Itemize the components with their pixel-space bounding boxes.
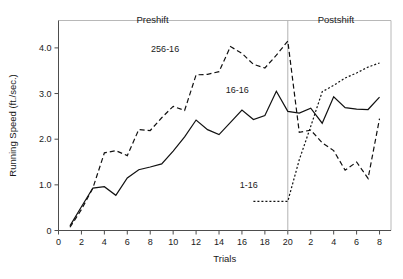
y-tick-label: 0	[46, 226, 51, 236]
y-tick-label: 3.0	[39, 89, 52, 99]
axis-titles: TrialsRunning Speed (ft./sec.)	[7, 74, 236, 263]
series-line-256-16	[70, 41, 380, 227]
series-label-16-16: 16-16	[226, 85, 249, 95]
chart-svg: 01.02.03.04.0024681012141618202468 Presh…	[0, 0, 403, 279]
y-tick-label: 4.0	[39, 43, 52, 53]
axis-lines	[59, 21, 392, 231]
axis-ticks	[55, 48, 380, 235]
y-axis-title: Running Speed (ft./sec.)	[7, 74, 18, 176]
series-label-1-16: 1-16	[240, 180, 258, 190]
x-tick-label: 6	[354, 237, 359, 247]
x-tick-label: 8	[377, 237, 382, 247]
plot-border	[59, 21, 392, 231]
x-tick-label: 4	[331, 237, 336, 247]
y-tick-label: 2.0	[39, 134, 52, 144]
y-tick-label: 1.0	[39, 180, 52, 190]
annotation-group: PreshiftPostshift256-1616-161-16	[136, 14, 354, 190]
series-line-16-16	[70, 91, 380, 226]
x-tick-label: 0	[56, 237, 61, 247]
series-line-1-16	[253, 63, 379, 201]
postshift-label: Postshift	[318, 14, 355, 25]
x-axis-title: Trials	[213, 253, 236, 264]
x-tick-label: 6	[125, 237, 130, 247]
x-tick-label: 10	[168, 237, 178, 247]
chart-figure: 01.02.03.04.0024681012141618202468 Presh…	[0, 0, 403, 279]
x-tick-label: 16	[237, 237, 247, 247]
series-label-256-16: 256-16	[151, 44, 179, 54]
x-tick-label: 18	[260, 237, 270, 247]
x-tick-label: 2	[79, 237, 84, 247]
x-tick-label: 2	[308, 237, 313, 247]
x-tick-label: 4	[102, 237, 107, 247]
plot-frame	[59, 21, 392, 231]
x-tick-label: 20	[283, 237, 293, 247]
x-tick-label: 12	[191, 237, 201, 247]
preshift-label: Preshift	[136, 14, 169, 25]
series-group	[70, 41, 380, 227]
x-tick-label: 8	[148, 237, 153, 247]
x-tick-label: 14	[214, 237, 224, 247]
